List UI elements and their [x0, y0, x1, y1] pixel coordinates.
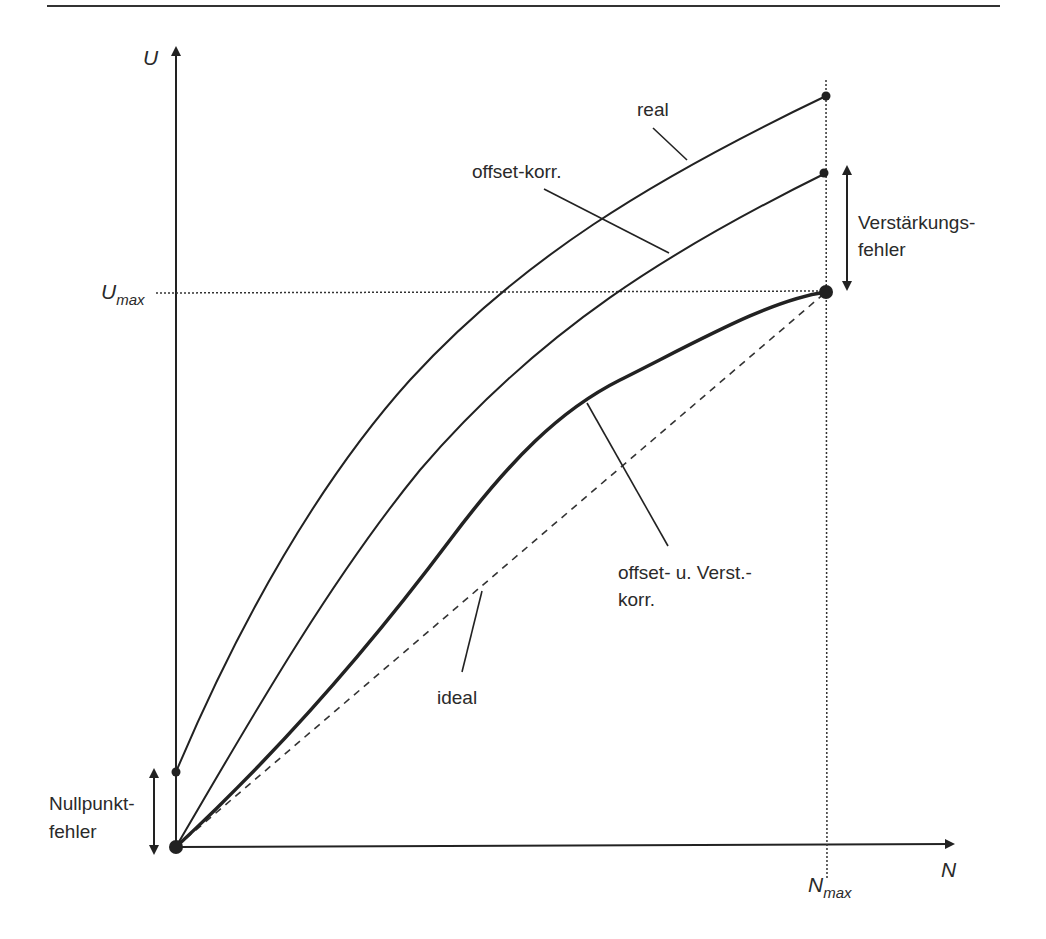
nmax-sub: max: [823, 884, 851, 901]
umax-guide: [156, 291, 826, 293]
y-axis-label: U: [143, 46, 158, 70]
corrected-label-line2: korr.: [618, 588, 655, 612]
real-leader: [653, 128, 687, 160]
real-end-point: [822, 92, 831, 101]
real-start-point: [172, 768, 181, 777]
corrected-label-line1: offset- u. Verst.-: [618, 561, 752, 585]
x-axis: [176, 844, 953, 847]
umax-sub: max: [116, 291, 144, 308]
umax-label: Umax: [101, 280, 145, 306]
nmax-guide: [826, 80, 827, 878]
real-label: real: [637, 98, 669, 122]
zero-error-label-line2: fehler: [49, 820, 97, 844]
umax-main: U: [101, 280, 116, 303]
x-axis-label: N: [941, 858, 956, 882]
real-curve: [176, 96, 826, 772]
zero-error-label-line1: Nullpunkt-: [49, 792, 135, 816]
gain-error-label-line1: Verstärkungs-: [858, 211, 975, 235]
offset-corrected-curve: [176, 173, 826, 847]
ideal-leader: [462, 591, 482, 672]
corrected-leader: [587, 403, 668, 546]
nmax-main: N: [808, 873, 823, 896]
ideal-label: ideal: [437, 686, 477, 710]
offset-end-point: [820, 169, 829, 178]
gain-error-label-line2: fehler: [858, 238, 906, 262]
error-diagram: [0, 0, 1046, 939]
offset-korr-label: offset-korr.: [472, 160, 561, 184]
offset-korr-leader: [544, 189, 669, 253]
umax-point: [819, 285, 833, 299]
origin-point: [169, 840, 183, 854]
nmax-label: Nmax: [808, 873, 852, 899]
